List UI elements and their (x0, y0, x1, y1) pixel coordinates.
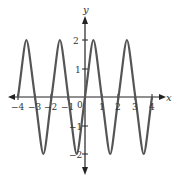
x-tick-label: 2 (115, 102, 121, 112)
y-tick-label: 1 (75, 65, 81, 75)
x-axis-right-arrow-icon (159, 94, 166, 100)
origin-label: 0 (77, 100, 83, 110)
x-tick-label: 1 (99, 102, 105, 112)
x-tick-label: 3 (132, 102, 138, 112)
x-tick-label: 4 (149, 102, 155, 112)
y-tick-label: −2 (69, 150, 82, 160)
x-tick-label: −2 (44, 102, 57, 112)
y-axis-label: y (82, 4, 89, 15)
x-axis-label: x (166, 92, 172, 103)
x-tick-label: −3 (28, 102, 42, 112)
y-tick-label: 2 (73, 36, 79, 46)
y-axis-down-arrow-icon (82, 167, 88, 175)
y-axis-up-arrow-icon (82, 16, 88, 24)
x-axis-left-arrow-icon (8, 94, 15, 100)
plot-area: x y 0 −4 −3 −2 −1 1 2 3 4 2 1 −1 −2 (0, 0, 173, 179)
x-tick-label: −1 (61, 102, 74, 112)
x-tick-label: −4 (11, 102, 25, 112)
y-tick-label: −1 (69, 122, 82, 132)
